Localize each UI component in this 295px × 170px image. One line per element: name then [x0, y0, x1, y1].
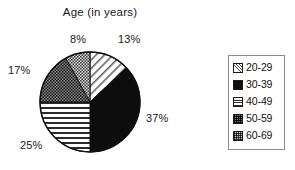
legend-swatch-icon-30-39 — [233, 80, 243, 90]
legend-swatch-icon-50-59 — [233, 114, 243, 124]
legend-swatch-icon-60-69 — [233, 131, 243, 141]
pie-chart-figure: Age (in years) — [0, 0, 295, 170]
chart-legend: 20-29 30-39 40-49 50-59 60-69 — [228, 55, 285, 150]
pie-value-label-40-49: 25% — [20, 139, 42, 151]
pie-value-label-60-69: 8% — [70, 33, 86, 45]
pie-value-label-50-59: 17% — [8, 64, 30, 76]
legend-item-40-49: 40-49 — [233, 93, 284, 110]
chart-title: Age (in years) — [0, 6, 200, 18]
legend-item-30-39: 30-39 — [233, 76, 284, 93]
legend-item-60-69: 60-69 — [233, 127, 284, 144]
legend-label-60-69: 60-69 — [246, 130, 272, 141]
pie-chart-graphic — [35, 47, 145, 157]
legend-swatch-icon-20-29 — [233, 63, 243, 73]
legend-swatch-icon-40-49 — [233, 97, 243, 107]
legend-item-50-59: 50-59 — [233, 110, 284, 127]
legend-label-50-59: 50-59 — [246, 113, 272, 124]
pie-value-label-30-39: 37% — [146, 112, 168, 124]
legend-label-30-39: 30-39 — [246, 79, 272, 90]
legend-item-20-29: 20-29 — [233, 59, 284, 76]
pie-value-label-20-29: 13% — [118, 33, 140, 45]
legend-label-40-49: 40-49 — [246, 96, 272, 107]
legend-label-20-29: 20-29 — [246, 62, 272, 73]
